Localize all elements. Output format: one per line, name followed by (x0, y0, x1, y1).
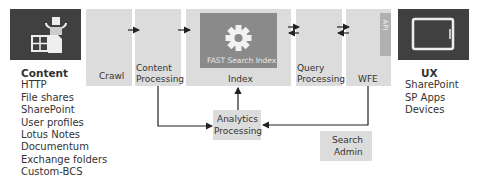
tablet-icon (398, 9, 469, 60)
crawl-label: Crawl (99, 71, 124, 82)
fast-search-index-label: FAST Search Index (207, 55, 276, 66)
content-item: Lotus Notes (21, 129, 107, 141)
ux-item: SP Apps (405, 92, 459, 104)
content-sources-icon (10, 9, 81, 60)
api-box: API (380, 13, 391, 56)
content-item: Documentum (21, 141, 107, 153)
crawl-box: Crawl (86, 9, 132, 86)
ux-item: SharePoint (405, 79, 459, 91)
ux-title: UX (405, 67, 459, 79)
search-admin-box: Search Admin (320, 131, 372, 161)
index-box: FAST Search Index Index (186, 9, 291, 86)
fast-search-index-box: FAST Search Index (200, 13, 277, 68)
arrow-wfe-to-analytics (263, 86, 368, 125)
ux-list: UX SharePoint SP Apps Devices (405, 67, 459, 117)
ux-item: Devices (405, 104, 459, 116)
api-label: API (381, 14, 389, 36)
content-processing-box: Content Processing (135, 9, 181, 86)
arrow-content-processing-to-analytics (158, 86, 212, 126)
content-source-box (10, 9, 81, 60)
content-processing-label-1: Content (136, 63, 172, 74)
analytics-label-2: Processing (214, 126, 262, 137)
content-item: Exchange folders (21, 154, 107, 166)
analytics-label-1: Analytics (217, 114, 258, 125)
search-admin-label-1: Search (332, 135, 363, 146)
wfe-label: WFE (358, 74, 378, 85)
analytics-processing-box: Analytics Processing (213, 110, 261, 140)
content-item: File shares (21, 92, 107, 104)
ux-box (398, 9, 469, 60)
search-admin-label-2: Admin (334, 147, 363, 158)
wfe-box: API WFE (346, 9, 391, 86)
content-item: User profiles (21, 117, 107, 129)
content-processing-label-2: Processing (136, 74, 184, 85)
index-label: Index (228, 74, 253, 85)
content-item: Custom-BCS (21, 166, 107, 178)
query-processing-label-2: Processing (297, 74, 345, 85)
content-item: SharePoint (21, 104, 107, 116)
query-processing-box: Query Processing (296, 9, 342, 86)
query-processing-label-1: Query (297, 63, 324, 74)
